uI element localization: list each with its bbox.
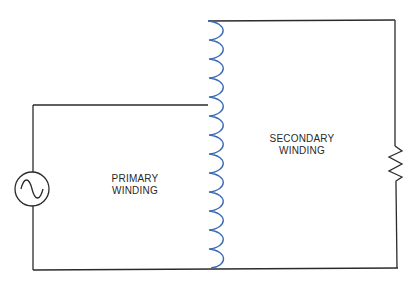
secondary-label-line-1: SECONDARY bbox=[256, 133, 348, 145]
primary-label-line-1: PRIMARY bbox=[96, 173, 174, 185]
ac-source-icon bbox=[15, 172, 49, 206]
resistor-icon bbox=[389, 146, 402, 185]
primary-circuit-wires bbox=[33, 105, 398, 270]
primary-winding-label: PRIMARY WINDING bbox=[96, 173, 174, 197]
primary-label-line-2: WINDING bbox=[96, 185, 174, 197]
secondary-label-line-2: WINDING bbox=[256, 145, 348, 157]
secondary-top-wire bbox=[208, 20, 395, 21]
coil-icon bbox=[208, 21, 224, 268]
bottom-wire bbox=[33, 268, 398, 270]
transformer-circuit-diagram bbox=[0, 0, 412, 284]
secondary-right-lower-wire bbox=[396, 185, 397, 268]
secondary-winding-label: SECONDARY WINDING bbox=[256, 133, 348, 157]
